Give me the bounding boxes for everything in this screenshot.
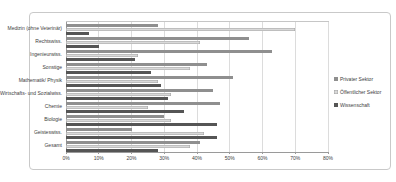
bar — [66, 80, 158, 83]
x-tick-label: 10% — [94, 155, 104, 161]
bar — [66, 119, 171, 122]
bar — [66, 37, 249, 40]
bar-group — [66, 74, 328, 87]
bar-group — [66, 139, 328, 152]
legend-item: Öffentlicher Sektor — [334, 85, 381, 98]
category-label: Gesamt — [0, 139, 62, 152]
x-axis-tick — [197, 152, 198, 154]
bar-group — [66, 48, 328, 61]
category-label: Biologie — [0, 113, 62, 126]
category-label: Sonstige — [0, 61, 62, 74]
bar — [66, 54, 138, 57]
x-axis-tick — [164, 152, 165, 154]
bar-group — [66, 126, 328, 139]
category-label: Ingenieurwiss. — [0, 48, 62, 61]
x-axis-line — [66, 152, 329, 153]
legend-swatch-icon — [334, 77, 338, 81]
x-tick-label: 60% — [257, 155, 267, 161]
bar — [66, 41, 200, 44]
x-tick-label: 50% — [225, 155, 235, 161]
x-axis-tick — [262, 152, 263, 154]
bar — [66, 128, 132, 131]
x-tick-label: 20% — [126, 155, 136, 161]
x-axis-tick — [66, 152, 67, 154]
category-label: Wirtschafts- und Sozialwiss. — [0, 87, 62, 100]
bar-group — [66, 35, 328, 48]
bar-group — [66, 87, 328, 100]
x-axis-tick — [295, 152, 296, 154]
category-label: Chemie — [0, 100, 62, 113]
bar — [66, 141, 200, 144]
legend-swatch-icon — [334, 103, 338, 107]
bar — [66, 102, 220, 105]
bar — [66, 145, 190, 148]
bar-group — [66, 22, 328, 35]
bar — [66, 67, 190, 70]
bar — [66, 89, 213, 92]
bar — [66, 28, 295, 31]
category-label: Medizin (ohne Veterinär) — [0, 22, 62, 35]
x-axis-tick — [131, 152, 132, 154]
legend-label: Wissenschaft — [340, 102, 370, 108]
category-label: Geisteswiss. — [0, 126, 62, 139]
bar-group — [66, 113, 328, 126]
bar — [66, 93, 171, 96]
category-label: Mathematik/ Physik — [0, 74, 62, 87]
bar — [66, 149, 158, 152]
x-axis-tick — [328, 152, 329, 154]
x-tick-label: 80% — [323, 155, 333, 161]
x-tick-label: 70% — [290, 155, 300, 161]
bar — [66, 115, 164, 118]
legend-item: Wissenschaft — [334, 98, 381, 111]
x-tick-label: 0% — [62, 155, 69, 161]
bar — [66, 106, 148, 109]
bar — [66, 50, 272, 53]
bar — [66, 24, 158, 27]
bar — [66, 76, 233, 79]
x-tick-label: 40% — [192, 155, 202, 161]
category-axis-labels: Medizin (ohne Veterinär)Rechtswiss.Ingen… — [0, 22, 62, 152]
x-axis-tick — [229, 152, 230, 154]
legend-label: Privater Sektor — [340, 76, 373, 82]
legend-swatch-icon — [334, 90, 338, 94]
x-axis-tick — [98, 152, 99, 154]
bar-group — [66, 100, 328, 113]
x-axis-tick-labels: 0%10%20%30%40%50%60%70%80% — [66, 155, 328, 163]
bar — [66, 132, 204, 135]
legend-item: Privater Sektor — [334, 72, 381, 85]
x-tick-label: 30% — [159, 155, 169, 161]
chart: Medizin (ohne Veterinär)Rechtswiss.Ingen… — [0, 0, 396, 182]
plot-area — [66, 22, 328, 152]
bar — [66, 63, 207, 66]
legend-label: Öffentlicher Sektor — [340, 89, 381, 95]
category-label: Rechtswiss. — [0, 35, 62, 48]
bar-group — [66, 61, 328, 74]
legend: Privater SektorÖffentlicher SektorWissen… — [334, 72, 381, 111]
